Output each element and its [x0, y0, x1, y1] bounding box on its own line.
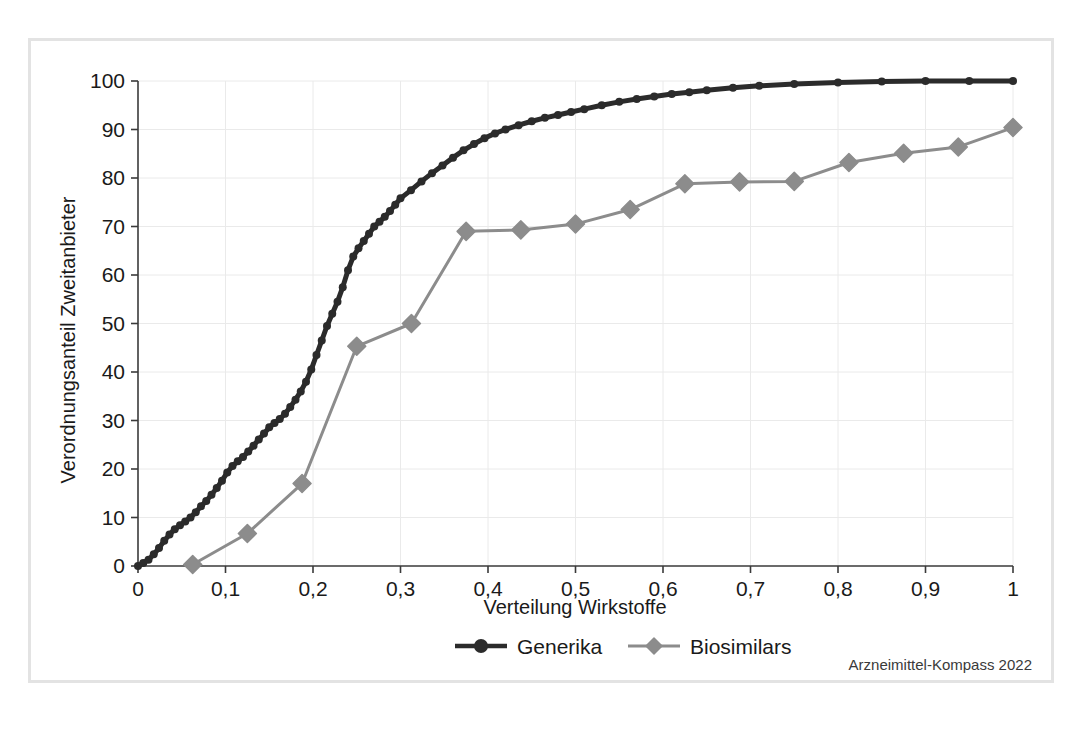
- legend-item-biosimilars[interactable]: Biosimilars: [628, 635, 792, 658]
- data-point: [302, 378, 310, 386]
- data-point: [567, 108, 575, 116]
- y-tick-label: 100: [90, 69, 125, 92]
- chart-legend: GenerikaBiosimilars: [455, 635, 792, 658]
- data-point: [334, 298, 342, 306]
- legend-marker-diamond: [646, 638, 662, 654]
- data-point: [528, 117, 536, 125]
- data-point: [1009, 77, 1017, 85]
- x-tick-label: 0,7: [736, 577, 765, 600]
- data-point: [339, 283, 347, 291]
- data-point: [348, 337, 366, 355]
- data-point: [895, 144, 913, 162]
- data-point: [731, 173, 749, 191]
- data-point: [360, 237, 368, 245]
- data-point: [397, 194, 405, 202]
- x-tick-label: 0,3: [386, 577, 415, 600]
- data-point: [1004, 119, 1022, 137]
- data-point: [307, 366, 315, 374]
- data-point: [785, 172, 803, 190]
- legend-label: Biosimilars: [690, 635, 792, 658]
- y-tick-label: 60: [102, 263, 125, 286]
- data-point: [621, 201, 639, 219]
- axis-ticks: [131, 81, 1013, 573]
- data-point: [355, 244, 363, 252]
- data-point: [685, 88, 693, 96]
- data-point: [418, 177, 426, 185]
- data-point: [457, 222, 475, 240]
- data-point: [402, 315, 420, 333]
- data-point: [386, 207, 394, 215]
- axis-tick-labels: 010203040506070809010000,10,20,30,40,50,…: [90, 69, 1019, 600]
- y-tick-label: 90: [102, 118, 125, 141]
- data-point: [633, 95, 641, 103]
- legend-item-generika[interactable]: Generika: [455, 635, 603, 658]
- data-point: [512, 221, 530, 239]
- data-point: [554, 111, 562, 119]
- data-point: [349, 253, 357, 261]
- y-axis-title: Verordnungsanteil Zweitanbieter: [57, 196, 79, 483]
- data-point: [250, 442, 258, 450]
- data-point: [428, 169, 436, 177]
- y-tick-label: 40: [102, 360, 125, 383]
- data-point: [703, 86, 711, 94]
- data-point: [155, 544, 163, 552]
- x-tick-label: 1: [1007, 577, 1019, 600]
- y-tick-label: 30: [102, 409, 125, 432]
- data-point: [160, 537, 168, 545]
- x-tick-label: 0,2: [298, 577, 327, 600]
- data-point: [281, 410, 289, 418]
- data-point: [150, 550, 158, 558]
- data-point: [323, 322, 331, 330]
- data-point: [218, 477, 226, 485]
- data-point: [922, 77, 930, 85]
- data-point: [328, 310, 336, 318]
- data-point: [840, 153, 858, 171]
- data-point: [223, 468, 231, 476]
- data-point: [515, 121, 523, 129]
- y-tick-label: 80: [102, 166, 125, 189]
- x-tick-label: 0: [132, 577, 144, 600]
- x-tick-label: 0,9: [911, 577, 940, 600]
- data-point: [567, 215, 585, 233]
- data-point: [202, 497, 210, 505]
- data-point: [481, 134, 489, 142]
- data-point: [391, 201, 399, 209]
- data-point: [449, 154, 457, 162]
- data-point: [318, 336, 326, 344]
- gridlines: [138, 81, 1013, 566]
- data-point: [650, 93, 658, 101]
- data-point: [580, 105, 588, 113]
- data-point: [213, 484, 221, 492]
- data-series-layer: [134, 77, 1022, 574]
- x-tick-label: 0,8: [823, 577, 852, 600]
- data-point: [729, 84, 737, 92]
- data-point: [365, 230, 373, 238]
- data-point: [208, 491, 216, 499]
- data-point: [260, 430, 268, 438]
- x-axis-title: Verteilung Wirkstoffe: [483, 596, 666, 618]
- data-point: [439, 161, 447, 169]
- data-point: [460, 146, 468, 154]
- legend-marker-circle: [474, 639, 488, 653]
- line-chart: 010203040506070809010000,10,20,30,40,50,…: [0, 0, 1085, 731]
- y-tick-label: 20: [102, 457, 125, 480]
- y-tick-label: 50: [102, 312, 125, 335]
- source-attribution: Arzneimittel-Kompass 2022: [849, 656, 1032, 673]
- data-point: [965, 77, 973, 85]
- data-point: [344, 266, 352, 274]
- y-tick-label: 70: [102, 215, 125, 238]
- chart-figure: 010203040506070809010000,10,20,30,40,50,…: [0, 0, 1085, 731]
- data-point: [755, 82, 763, 90]
- legend-label: Generika: [517, 635, 603, 658]
- data-point: [502, 126, 510, 134]
- x-tick-label: 0,1: [211, 577, 240, 600]
- series-biosimilars: [184, 119, 1022, 574]
- data-point: [297, 387, 305, 395]
- data-point: [598, 101, 606, 109]
- data-point: [286, 403, 294, 411]
- data-point: [615, 98, 623, 106]
- data-point: [184, 556, 202, 574]
- data-point: [541, 114, 549, 122]
- data-point: [470, 140, 478, 148]
- data-point: [407, 186, 415, 194]
